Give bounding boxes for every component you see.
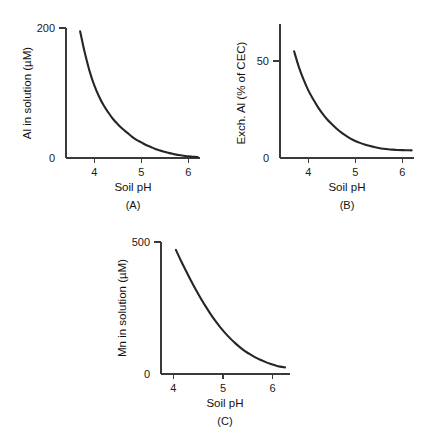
x-tick-label-5: 5 (352, 166, 358, 178)
x-tick-label-5: 5 (138, 166, 144, 178)
x-tick-labels-c: 456 (170, 382, 275, 394)
data-curve-c (176, 250, 285, 367)
y-tick-labels-a: 0200 (37, 22, 55, 164)
axes-a (59, 28, 200, 163)
chart-svg-a: 456 0200 Soil pH Al in solution (µM) (A) (0, 0, 215, 215)
panel-caption-a: (A) (126, 199, 141, 211)
panel-caption-b: (B) (340, 199, 355, 211)
x-axis-title-a: Soil pH (114, 181, 151, 193)
y-tick-label-500: 500 (132, 236, 150, 248)
y-axis-title-b: Exch. Al (% of CEC) (235, 41, 247, 144)
y-tick-label-50: 50 (257, 55, 269, 67)
x-axis-title-b: Soil pH (328, 181, 365, 193)
x-tick-label-4: 4 (170, 382, 176, 394)
y-tick-labels-c: 0500 (132, 236, 150, 380)
x-tick-label-5: 5 (220, 382, 226, 394)
y-axis-title-a: Al in solution (µM) (21, 47, 33, 139)
y-tick-label-200: 200 (37, 22, 55, 34)
figure-soil-ph-panels: 456 0200 Soil pH Al in solution (µM) (A)… (0, 0, 429, 443)
chart-svg-c: 456 0500 Soil pH Mn in solution (µM) (C) (95, 215, 335, 443)
data-curve-b (294, 51, 412, 150)
chart-svg-b: 456 050 Soil pH Exch. Al (% of CEC) (B) (214, 0, 429, 215)
y-tick-label-0: 0 (263, 152, 269, 164)
x-tick-labels-a: 456 (91, 166, 191, 178)
y-tick-label-0: 0 (49, 152, 55, 164)
x-tick-marks-a (94, 158, 188, 163)
axes-c (154, 242, 290, 379)
x-tick-label-6: 6 (185, 166, 191, 178)
x-tick-label-4: 4 (305, 166, 311, 178)
chart-panel-b: 456 050 Soil pH Exch. Al (% of CEC) (B) (214, 0, 429, 215)
y-axis-title-c: Mn in solution (µM) (116, 259, 128, 357)
x-tick-marks-b (308, 158, 402, 163)
data-curve-a (80, 31, 198, 157)
x-tick-labels-b: 456 (305, 166, 405, 178)
chart-panel-a: 456 0200 Soil pH Al in solution (µM) (A) (0, 0, 215, 215)
chart-panel-c: 456 0500 Soil pH Mn in solution (µM) (C) (95, 215, 335, 443)
x-tick-label-6: 6 (399, 166, 405, 178)
axes-b (273, 24, 414, 163)
x-tick-marks-c (173, 374, 272, 379)
y-tick-labels-b: 050 (257, 55, 269, 164)
y-tick-label-0: 0 (144, 368, 150, 380)
x-tick-label-4: 4 (91, 166, 97, 178)
panel-caption-c: (C) (217, 415, 232, 427)
x-tick-label-6: 6 (270, 382, 276, 394)
x-axis-title-c: Soil pH (206, 397, 243, 409)
